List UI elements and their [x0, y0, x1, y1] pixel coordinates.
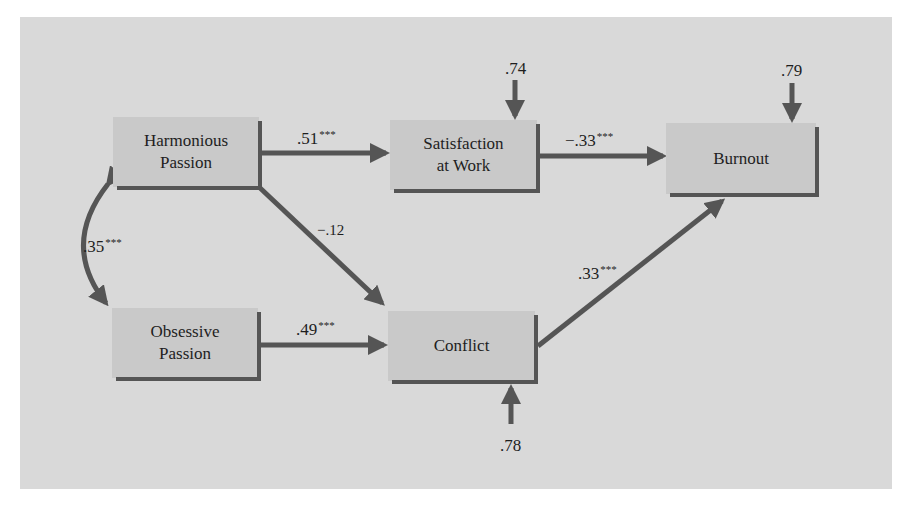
node-label: Passion	[160, 152, 212, 174]
coef-op-conflict: .49***	[296, 320, 335, 338]
node-label: Satisfaction	[423, 133, 503, 155]
coef-conflict-burnout: .33***	[578, 264, 617, 282]
coef-hp-conflict: −.12	[317, 223, 344, 238]
arrow-conflict-burnout	[538, 201, 722, 346]
residual-conflict: .78	[500, 437, 521, 454]
node-label: Conflict	[434, 335, 490, 357]
residual-satisfaction: .74	[505, 60, 526, 77]
node-harmonious-passion: Harmonious Passion	[113, 117, 259, 187]
node-obsessive-passion: Obsessive Passion	[112, 308, 258, 378]
coef-satisfaction-burnout: −.33***	[565, 131, 613, 149]
coef-correlation: .35***	[83, 237, 122, 255]
coef-hp-satisfaction: .51***	[297, 129, 336, 147]
node-label: Burnout	[713, 148, 769, 170]
node-label: Harmonious	[144, 130, 228, 152]
node-label: Obsessive	[151, 321, 220, 343]
node-satisfaction-at-work: Satisfaction at Work	[390, 120, 537, 190]
path-arrows	[0, 0, 901, 514]
node-label: at Work	[437, 155, 491, 177]
residual-burnout: .79	[781, 62, 802, 79]
node-label: Passion	[159, 343, 211, 365]
arrow-hp-conflict	[259, 187, 382, 303]
node-conflict: Conflict	[388, 311, 535, 381]
node-burnout: Burnout	[666, 123, 816, 194]
